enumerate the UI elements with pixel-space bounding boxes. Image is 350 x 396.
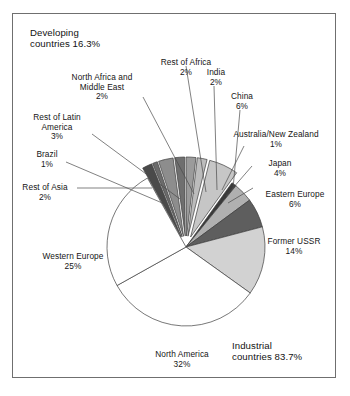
pie-label-value: 3% — [51, 131, 63, 141]
pie-label-name: Japan — [268, 158, 291, 168]
pie-label-name: Rest of Africa — [161, 57, 212, 67]
pie-label-value: 1% — [270, 139, 282, 149]
pie-label-name: Former USSR — [267, 236, 320, 246]
pie-label-value: 2% — [180, 67, 192, 77]
pie-label-value: 14% — [286, 246, 303, 256]
pie-label-north-africa: North Africa and Middle East2% — [57, 73, 147, 102]
pie-label-rest-of-asia: Rest of Asia2% — [14, 183, 76, 202]
figure-root: China 6%Australia/New Zealand 1%Japan 4%… — [0, 0, 350, 396]
pie-label-western-europe: Western Europe25% — [30, 252, 116, 271]
pie-label-former-ussr: Former USSR14% — [256, 237, 332, 256]
pie-label-eastern-europe: Eastern Europe6% — [254, 190, 336, 209]
pie-label-name: India — [207, 67, 225, 77]
pie-label-name: China — [231, 91, 253, 101]
pie-label-value: 2% — [210, 77, 222, 87]
pie-label-value: 6% — [289, 199, 301, 209]
pie-label-japan: Japan4% — [256, 159, 304, 178]
pie-label-australia-nz: Australia/New Zealand1% — [218, 130, 334, 149]
pie-label-value: 2% — [39, 192, 51, 202]
pie-label-name: Brazil — [36, 149, 57, 159]
pie-label-rest-latin: Rest of Latin America3% — [18, 113, 96, 142]
pie-slice-group: China 6%Australia/New Zealand 1%Japan 4%… — [107, 157, 265, 326]
pie-label-name: North America — [155, 349, 209, 359]
pie-label-name: Rest of Asia — [22, 182, 67, 192]
pie-label-value: 6% — [236, 101, 248, 111]
group-label-developing-countries: Developing countries 16.3% — [30, 27, 100, 50]
leader-line-china — [233, 110, 240, 189]
pie-label-china: China6% — [222, 92, 262, 111]
pie-label-value: 25% — [65, 261, 82, 271]
pie-label-value: 4% — [274, 168, 286, 178]
pie-label-value: 32% — [174, 359, 191, 369]
pie-label-value: 1% — [41, 159, 53, 169]
group-label-industrial-countries: Industrial countries 83.7% — [232, 340, 302, 363]
pie-label-brazil: Brazil1% — [22, 150, 72, 169]
pie-label-value: 2% — [96, 91, 108, 101]
pie-label-name: Australia/New Zealand — [233, 129, 318, 139]
pie-label-name: North Africa and Middle East — [72, 72, 133, 92]
pie-label-name: Eastern Europe — [266, 189, 325, 199]
pie-label-north-america: North America32% — [142, 350, 222, 369]
pie-label-name: Rest of Latin America — [33, 112, 81, 132]
pie-label-india: India2% — [196, 68, 236, 87]
pie-label-name: Western Europe — [43, 251, 104, 261]
